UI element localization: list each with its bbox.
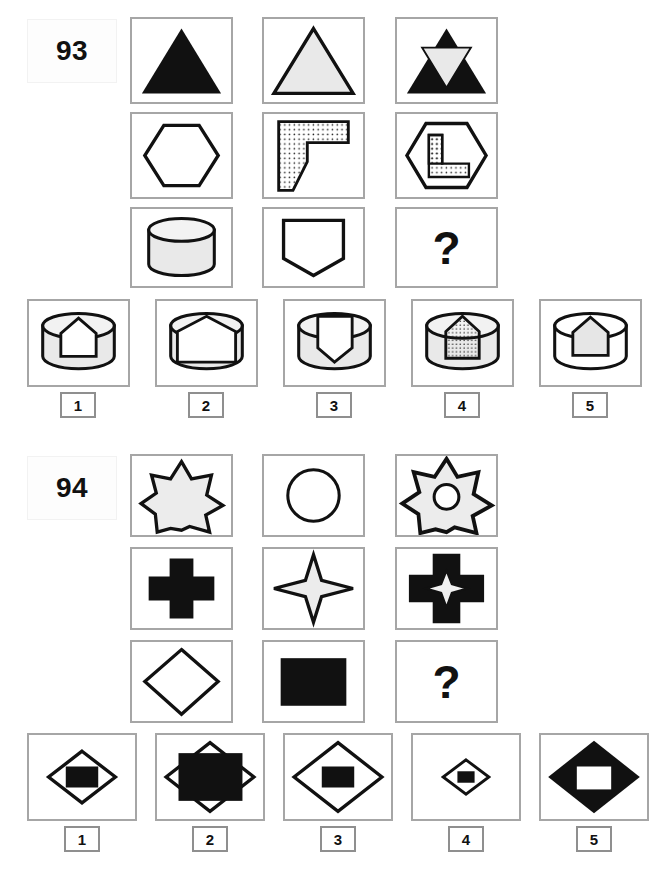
triangle-light-icon [264, 19, 363, 102]
matrix-cell-94-r1c3[interactable] [395, 454, 498, 537]
puzzle-93: 93 [0, 0, 661, 425]
black-rect-over-diamond-icon [157, 735, 263, 819]
option-number-4[interactable]: 4 [444, 392, 480, 418]
small-diamond-with-black-rect-icon [413, 735, 519, 819]
option-94-2[interactable] [155, 733, 265, 821]
matrix-cell-94-r2c2[interactable] [262, 547, 365, 630]
cylinder-with-light-pentagon-icon [541, 301, 640, 385]
option-2[interactable] [155, 299, 258, 387]
diamond-outline-icon [132, 642, 231, 721]
matrix-cell-r3c2[interactable] [262, 207, 365, 288]
option-3[interactable] [283, 299, 386, 387]
seven-point-star-icon [132, 456, 231, 535]
hexagon-with-dotted-l-icon [397, 114, 496, 197]
hexagon-outline-icon [132, 114, 231, 197]
matrix-cell-r3c1[interactable] [130, 207, 233, 288]
matrix-cell-r2c1[interactable] [130, 112, 233, 199]
matrix-cell-94-r1c2[interactable] [262, 454, 365, 537]
matrix-cell-94-r2c1[interactable] [130, 547, 233, 630]
option-94-number-1[interactable]: 1 [64, 826, 100, 852]
question-number-94: 94 [27, 456, 117, 520]
cross-black-icon [132, 549, 231, 628]
dotted-l-block-icon [264, 114, 363, 197]
cross-with-star-hole-icon [397, 549, 496, 628]
cylinder-with-dotted-pentagon-icon [413, 301, 512, 385]
four-point-star-icon [264, 549, 363, 628]
rectangle-black-icon [264, 642, 363, 721]
matrix-cell-94-r3c3-missing[interactable]: ? [395, 640, 498, 723]
option-94-number-4[interactable]: 4 [448, 826, 484, 852]
matrix-cell-94-r3c1[interactable] [130, 640, 233, 723]
option-94-number-3[interactable]: 3 [320, 826, 356, 852]
matrix-cell-94-r2c3[interactable] [395, 547, 498, 630]
cylinder-large-white-pentagon-icon [157, 301, 256, 385]
triangle-black-icon [132, 19, 231, 102]
option-94-3[interactable] [283, 733, 393, 821]
black-diamond-with-white-rect-icon [541, 735, 647, 819]
matrix-cell-r1c3[interactable] [395, 17, 498, 104]
option-number-5[interactable]: 5 [572, 392, 608, 418]
matrix-cell-r1c2[interactable] [262, 17, 365, 104]
option-number-2[interactable]: 2 [188, 392, 224, 418]
cylinder-light-icon [132, 209, 231, 286]
option-94-number-5[interactable]: 5 [576, 826, 612, 852]
cylinder-with-white-pentagon-icon [29, 301, 128, 385]
matrix-cell-94-r3c2[interactable] [262, 640, 365, 723]
matrix-cell-r3c3-missing[interactable]: ? [395, 207, 498, 288]
option-94-number-2[interactable]: 2 [192, 826, 228, 852]
option-94-5[interactable] [539, 733, 649, 821]
option-94-4[interactable] [411, 733, 521, 821]
question-number-93: 93 [27, 19, 117, 83]
option-94-1[interactable] [27, 733, 137, 821]
question-mark-93: ? [397, 209, 496, 286]
circle-outline-icon [264, 456, 363, 535]
puzzle-94: 94 [0, 437, 661, 885]
cylinder-with-inverted-pentagon-icon [285, 301, 384, 385]
triangle-combo-icon [397, 19, 496, 102]
option-number-3[interactable]: 3 [316, 392, 352, 418]
pentagon-down-outline-icon [264, 209, 363, 286]
large-diamond-with-black-rect-icon [285, 735, 391, 819]
matrix-cell-r2c3[interactable] [395, 112, 498, 199]
matrix-cell-94-r1c1[interactable] [130, 454, 233, 537]
option-number-1[interactable]: 1 [60, 392, 96, 418]
star-with-circle-hole-icon [397, 456, 496, 535]
matrix-cell-r1c1[interactable] [130, 17, 233, 104]
matrix-cell-r2c2[interactable] [262, 112, 365, 199]
option-4[interactable] [411, 299, 514, 387]
option-5[interactable] [539, 299, 642, 387]
question-mark-94: ? [397, 642, 496, 721]
option-1[interactable] [27, 299, 130, 387]
diamond-outline-with-black-rect-icon [29, 735, 135, 819]
